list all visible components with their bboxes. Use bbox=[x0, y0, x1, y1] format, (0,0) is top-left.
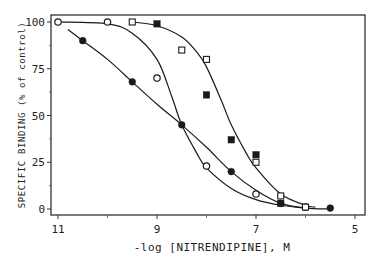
data-point-filled-circle bbox=[228, 168, 235, 175]
data-point-filled-square bbox=[278, 200, 284, 206]
data-point-open-square bbox=[129, 19, 135, 25]
y-tick-label: 50 bbox=[32, 110, 45, 123]
data-point-filled-circle bbox=[79, 37, 86, 44]
y-tick-label: 0 bbox=[38, 203, 45, 216]
x-tick-label: 5 bbox=[352, 223, 359, 236]
data-point-filled-square bbox=[228, 137, 234, 143]
data-points bbox=[55, 19, 334, 212]
data-point-open-square bbox=[253, 159, 259, 165]
data-point-filled-circle bbox=[178, 121, 185, 128]
data-point-open-square bbox=[303, 204, 309, 210]
data-point-filled-square bbox=[253, 152, 259, 158]
data-point-open-circle bbox=[253, 191, 259, 197]
data-point-open-circle bbox=[55, 19, 61, 25]
y-axis-label: SPECIFIC BINDING (% of control) bbox=[17, 22, 27, 209]
plot-frame bbox=[51, 15, 365, 215]
data-point-open-square bbox=[204, 56, 210, 62]
data-point-filled-circle bbox=[129, 78, 136, 85]
data-point-filled-square bbox=[154, 21, 160, 27]
x-tick-label: 7 bbox=[253, 223, 260, 236]
data-point-open-square bbox=[278, 193, 284, 199]
data-point-filled-square bbox=[203, 92, 209, 98]
data-point-open-circle bbox=[203, 163, 209, 169]
data-point-open-circle bbox=[104, 19, 110, 25]
x-axis-label: -log [NITRENDIPINE], M bbox=[134, 241, 291, 254]
data-point-open-square bbox=[179, 47, 185, 53]
fit-curve bbox=[68, 29, 330, 209]
axis-ticks: 025507510011975 bbox=[25, 16, 358, 236]
x-tick-label: 9 bbox=[154, 223, 161, 236]
y-tick-label: 25 bbox=[32, 156, 45, 169]
y-tick-label: 75 bbox=[32, 63, 45, 76]
y-tick-label: 100 bbox=[25, 16, 45, 29]
data-point-open-circle bbox=[154, 75, 160, 81]
binding-chart: 025507510011975 -log [NITRENDIPINE], M S… bbox=[0, 0, 385, 262]
fit-curve bbox=[132, 22, 315, 207]
data-point-filled-circle bbox=[327, 205, 334, 212]
x-tick-label: 11 bbox=[51, 223, 64, 236]
fit-curves bbox=[58, 22, 330, 209]
